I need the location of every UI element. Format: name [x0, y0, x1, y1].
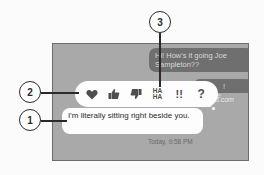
- thumbs-down-reaction-button[interactable]: [128, 86, 144, 102]
- thumbs-up-icon: [108, 88, 120, 100]
- reaction-bar-tail: [206, 101, 212, 107]
- thumbs-down-icon: [130, 88, 142, 100]
- question-mark-icon: ?: [197, 87, 204, 101]
- callout-1: 1: [19, 109, 41, 131]
- question-reaction-button[interactable]: ?: [193, 86, 209, 102]
- haha-reaction-button[interactable]: HA HA: [149, 86, 165, 102]
- thumbs-up-reaction-button[interactable]: [106, 86, 122, 102]
- haha-icon: HA HA: [153, 88, 162, 100]
- incoming-message-text: Hi! How's it going Joe Sampleton??: [155, 51, 227, 69]
- callout-2-leader-line: [41, 92, 79, 94]
- double-exclamation-icon: !!: [176, 88, 183, 100]
- outgoing-message-bubble[interactable]: I'm literally sitting right beside you.: [62, 108, 203, 134]
- reaction-bar-tail: [212, 107, 215, 110]
- callout-1-leader-line: [41, 120, 67, 122]
- tapback-reaction-bar: HA HA !! ?: [75, 81, 218, 107]
- outgoing-message-text: I'm literally sitting right beside you.: [68, 111, 190, 120]
- message-timestamp: Today, 9:58 PM: [148, 138, 193, 145]
- callout-3: 3: [149, 11, 171, 33]
- heart-reaction-button[interactable]: [84, 86, 100, 102]
- callout-3-leader-line: [159, 33, 161, 87]
- incoming-message-bubble[interactable]: Hi! How's it going Joe Sampleton??: [149, 48, 249, 72]
- callout-2: 2: [19, 81, 41, 103]
- exclamation-reaction-button[interactable]: !!: [171, 86, 187, 102]
- heart-icon: [86, 89, 98, 100]
